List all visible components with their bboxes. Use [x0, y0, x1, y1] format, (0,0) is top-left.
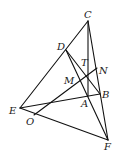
segment-cf — [88, 21, 108, 140]
label-point-a: A — [80, 98, 88, 109]
label-point-e: E — [8, 105, 17, 116]
label-point-d: D — [56, 41, 65, 52]
point-labels: CDTNMABEOF — [8, 9, 112, 152]
label-point-c: C — [84, 9, 92, 20]
label-point-m: M — [63, 75, 75, 86]
label-point-b: B — [101, 89, 109, 100]
label-point-n: N — [98, 65, 109, 76]
geometry-diagram: CDTNMABEOF — [0, 0, 119, 159]
label-point-f: F — [103, 141, 112, 152]
label-point-o: O — [26, 116, 34, 127]
